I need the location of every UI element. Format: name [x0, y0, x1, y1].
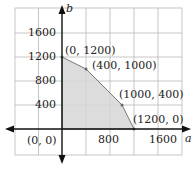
point-label-0-1200: (0, 1200) — [65, 45, 116, 56]
y-tick-800: 800 — [35, 75, 56, 86]
point-label-1200-0: (1200, 0) — [133, 114, 184, 125]
y-axis-arrow-down — [59, 155, 66, 164]
y-axis-label: b — [66, 3, 73, 14]
y-tick-1200: 1200 — [28, 51, 56, 62]
y-axis-arrow-up — [59, 5, 66, 14]
y-tick-400: 400 — [35, 99, 56, 110]
point-label-origin: (0, 0) — [27, 135, 57, 146]
x-tick-1600: 1600 — [149, 134, 177, 145]
x-axis-label: a — [185, 133, 192, 144]
x-axis-arrow-left — [5, 126, 14, 133]
point-label-400-1000: (400, 1000) — [92, 60, 157, 71]
x-tick-800: 800 — [98, 134, 119, 145]
point-label-1000-400: (1000, 400) — [119, 89, 184, 100]
y-tick-1600: 1600 — [28, 27, 56, 38]
